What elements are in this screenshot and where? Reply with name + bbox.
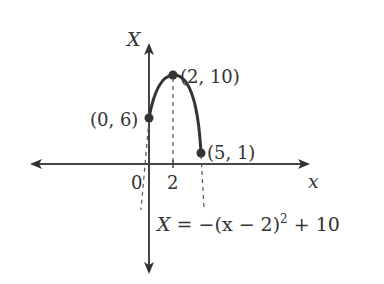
point-0-6 (145, 114, 154, 123)
equation-body: −(x − 2) (199, 213, 281, 235)
tick-label-0: 0 (131, 172, 142, 193)
y-axis-label: X (125, 28, 142, 50)
x-axis-label: x (308, 170, 319, 192)
point-label-0-6: (0, 6) (90, 109, 138, 130)
equation: X = −(x − 2)2 + 10 (155, 205, 340, 235)
equation-lhs: X (155, 213, 172, 235)
tick-label-2: 2 (167, 172, 178, 193)
equation-exponent: 2 (280, 212, 288, 226)
parabola-diagram: X x 0 2 (0, 6) (2, 10) (5, 1) X = −(x − … (0, 0, 384, 284)
point-2-10 (169, 71, 178, 80)
point-5-1 (197, 149, 206, 158)
diagram-canvas: X x 0 2 (0, 6) (2, 10) (5, 1) X = −(x − … (0, 0, 384, 284)
point-label-5-1: (5, 1) (207, 142, 255, 163)
equation-tail: + 10 (294, 213, 340, 235)
equation-eq: = (177, 213, 193, 235)
point-label-2-10: (2, 10) (180, 66, 240, 87)
